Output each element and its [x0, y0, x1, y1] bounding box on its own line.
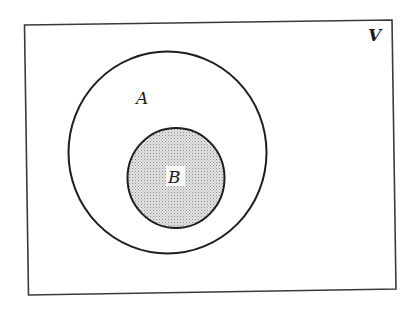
venn-diagram: V A B	[0, 0, 415, 319]
set-b-label: B	[167, 167, 181, 187]
set-a-label: A	[134, 88, 148, 108]
universe-label: V	[368, 25, 383, 45]
